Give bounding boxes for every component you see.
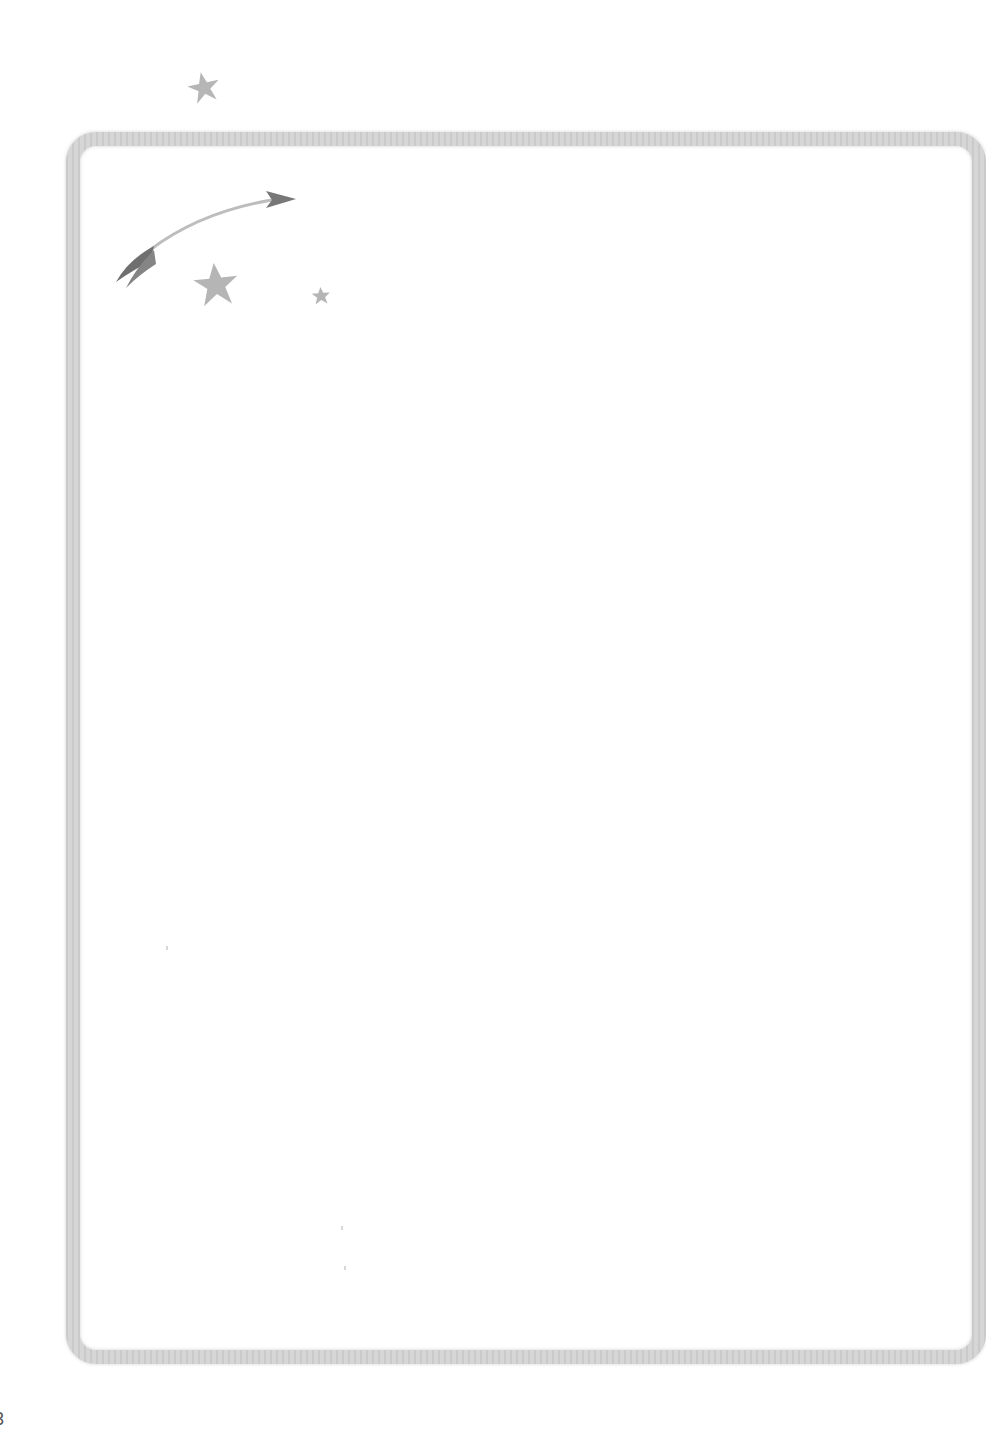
paper-speck (166, 946, 168, 950)
paper-speck (341, 1226, 343, 1230)
edge-text: 3 (0, 1410, 4, 1428)
decorative-frame (66, 132, 986, 1364)
star-icon (185, 69, 223, 105)
paper-speck (344, 1266, 346, 1270)
